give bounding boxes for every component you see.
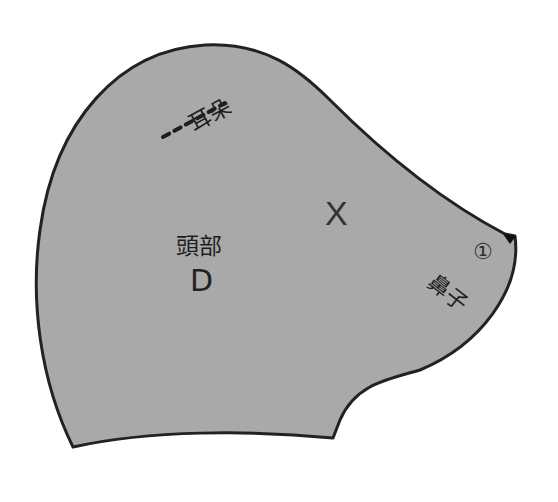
notch-number-label: ① xyxy=(473,241,493,263)
head-pattern-piece xyxy=(36,45,515,447)
part-name-label: 頭部 xyxy=(176,235,222,258)
mark-x-label: X xyxy=(325,196,348,230)
part-letter-label: D xyxy=(190,266,213,296)
